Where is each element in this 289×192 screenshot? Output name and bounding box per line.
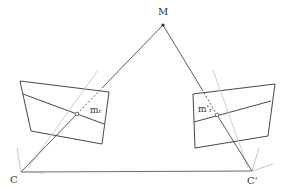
label-left-image-point: mr	[90, 105, 101, 115]
right-optical-axis	[213, 70, 248, 168]
point-m	[161, 23, 164, 26]
right-image-point-label: m'	[198, 104, 209, 114]
label-m-point: M	[158, 6, 168, 17]
right-ray-solid-lower	[217, 115, 252, 171]
left-image-point	[75, 112, 79, 116]
right-image-point	[215, 113, 219, 117]
baseline	[21, 171, 252, 172]
cprime-axis-right	[252, 164, 273, 171]
stereo-diagram	[0, 0, 289, 192]
right-image-plane	[193, 84, 275, 148]
right-ray-solid-upper	[163, 25, 203, 91]
label-c: C	[10, 174, 18, 185]
right-image-point-subscript: r	[209, 106, 212, 113]
cprime-axis-up	[252, 148, 259, 171]
label-right-image-point: m'r	[198, 104, 212, 114]
c-axis-up	[17, 148, 21, 172]
label-c-prime: C'	[247, 175, 257, 186]
left-ray-solid-upper	[103, 25, 163, 87]
left-image-point-subscript: r	[99, 107, 102, 114]
left-image-point-label: m	[90, 105, 99, 115]
